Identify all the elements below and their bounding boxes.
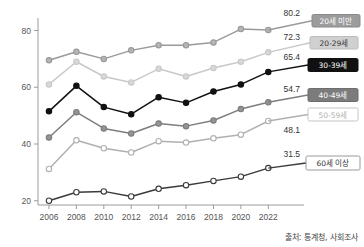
data-point bbox=[156, 43, 161, 48]
label-connector bbox=[268, 65, 308, 72]
data-point bbox=[156, 186, 161, 191]
x-tick-label: 2020 bbox=[231, 212, 250, 222]
data-point bbox=[183, 182, 188, 187]
data-point bbox=[211, 136, 216, 141]
x-tick-label: 2006 bbox=[40, 212, 59, 222]
data-point bbox=[74, 83, 79, 88]
data-point bbox=[129, 194, 134, 199]
data-point bbox=[46, 135, 51, 140]
data-point bbox=[156, 66, 161, 71]
data-point bbox=[101, 126, 106, 131]
series-3 bbox=[46, 100, 271, 141]
series-label-text: 20세 미만 bbox=[320, 17, 353, 26]
series-label-text: 30-39세 bbox=[319, 61, 348, 70]
data-point bbox=[74, 110, 79, 115]
series-label-text: 40-49세 bbox=[319, 91, 348, 100]
data-point bbox=[74, 59, 79, 64]
series-1 bbox=[46, 50, 271, 87]
data-point bbox=[101, 56, 106, 61]
data-point bbox=[46, 82, 51, 87]
data-point bbox=[46, 109, 51, 114]
line-chart: 2040608020062008201020122014201620182020… bbox=[0, 0, 364, 247]
data-point bbox=[129, 112, 134, 117]
data-point bbox=[129, 48, 134, 53]
label-connector bbox=[268, 95, 308, 102]
y-tick-label: 60 bbox=[22, 82, 32, 92]
data-point bbox=[129, 80, 134, 85]
x-tick-label: 2018 bbox=[204, 212, 223, 222]
data-point bbox=[101, 74, 106, 79]
series-label-text: 20-29세 bbox=[320, 39, 349, 48]
x-tick-label: 2016 bbox=[177, 212, 196, 222]
x-tick-label: 2014 bbox=[149, 212, 168, 222]
data-point bbox=[238, 132, 243, 137]
data-point bbox=[129, 131, 134, 136]
series-label-text: 50-59세 bbox=[319, 111, 348, 120]
data-point bbox=[183, 74, 188, 79]
data-point bbox=[183, 100, 188, 105]
series-0 bbox=[46, 26, 271, 63]
data-point bbox=[211, 89, 216, 94]
data-point bbox=[74, 138, 79, 143]
data-point bbox=[211, 40, 216, 45]
data-point bbox=[156, 121, 161, 126]
label-connector bbox=[268, 115, 308, 122]
data-point bbox=[183, 140, 188, 145]
data-point bbox=[238, 82, 243, 87]
y-tick-label: 20 bbox=[22, 196, 32, 206]
end-value-label: 31.5 bbox=[283, 149, 300, 159]
y-tick-label: 80 bbox=[22, 26, 32, 36]
data-point bbox=[74, 49, 79, 54]
y-axis-ticks: 20406080 bbox=[22, 26, 38, 206]
data-point bbox=[74, 190, 79, 195]
label-connector bbox=[268, 21, 312, 30]
data-point bbox=[156, 94, 161, 99]
x-tick-label: 2012 bbox=[122, 212, 141, 222]
data-point bbox=[238, 106, 243, 111]
chart-container: 2040608020062008201020122014201620182020… bbox=[0, 0, 364, 247]
chart-series-group bbox=[46, 26, 271, 203]
x-axis-ticks: 200620082010201220142016201820202022 bbox=[40, 205, 279, 222]
data-point bbox=[238, 174, 243, 179]
data-point bbox=[211, 118, 216, 123]
series-5 bbox=[46, 165, 271, 203]
data-point bbox=[183, 43, 188, 48]
end-value-label: 54.7 bbox=[283, 84, 300, 94]
data-point bbox=[238, 26, 243, 31]
data-point bbox=[101, 146, 106, 151]
data-point bbox=[46, 166, 51, 171]
series-label-text: 60세 이상 bbox=[317, 158, 350, 168]
end-value-label: 65.4 bbox=[283, 52, 300, 62]
data-point bbox=[129, 150, 134, 155]
x-tick-label: 2010 bbox=[94, 212, 113, 222]
data-point bbox=[238, 59, 243, 64]
series-2 bbox=[46, 69, 271, 117]
end-value-label: 72.3 bbox=[283, 32, 300, 42]
y-tick-label: 40 bbox=[22, 139, 32, 149]
data-point bbox=[46, 58, 51, 63]
label-connector bbox=[268, 43, 310, 53]
end-value-label: 80.2 bbox=[283, 8, 300, 18]
x-tick-label: 2022 bbox=[259, 212, 278, 222]
data-point bbox=[46, 198, 51, 203]
series-labels: 20세 미만20-29세30-39세40-49세50-59세60세 이상 bbox=[268, 15, 360, 171]
data-point bbox=[101, 189, 106, 194]
value-annotations: 80.272.365.454.748.131.5 bbox=[283, 8, 300, 159]
x-tick-label: 2008 bbox=[67, 212, 86, 222]
label-connector bbox=[268, 163, 306, 168]
data-point bbox=[156, 138, 161, 143]
data-point bbox=[183, 123, 188, 128]
data-point bbox=[101, 104, 106, 109]
data-point bbox=[211, 65, 216, 70]
data-point bbox=[211, 178, 216, 183]
source-caption: 출처: 통계청, 사회조사 bbox=[285, 232, 359, 242]
end-value-label: 48.1 bbox=[283, 125, 300, 135]
